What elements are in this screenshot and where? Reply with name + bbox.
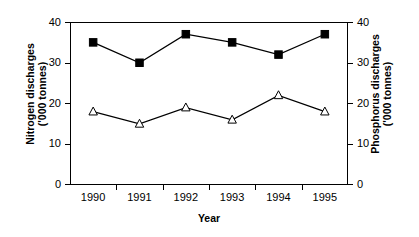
x-label-1993: 1993	[209, 192, 255, 203]
y-left-label-0: 0	[31, 179, 61, 190]
x-label-1994: 1994	[256, 192, 302, 203]
x-tick-boundary-3	[209, 185, 210, 190]
data-point-marker-square	[89, 39, 97, 47]
y-axis-right-title: Phosphorus discharges ('000 tonnes)	[369, 14, 393, 174]
y-right-tick-20	[348, 103, 353, 104]
x-tick-boundary-1	[116, 185, 117, 190]
data-point-marker-triangle	[89, 107, 97, 115]
y-right-tick-30	[348, 63, 353, 64]
series-layer	[70, 22, 348, 185]
x-label-1990: 1990	[70, 192, 116, 203]
x-axis-title: Year	[70, 212, 348, 224]
data-point-marker-square	[182, 30, 190, 38]
x-tick-boundary-4	[255, 185, 256, 190]
x-label-1995: 1995	[302, 192, 348, 203]
y-axis-left-title-line1: Nitrogen discharges	[24, 43, 36, 145]
x-label-1992: 1992	[163, 192, 209, 203]
series-line	[93, 34, 325, 63]
data-point-marker-triangle	[274, 91, 282, 99]
y-right-tick-10	[348, 144, 353, 145]
data-point-marker-square	[321, 30, 329, 38]
data-point-marker-square	[228, 39, 236, 47]
series-nitrogen	[89, 30, 328, 66]
data-point-marker-square	[136, 59, 144, 67]
y-axis-left-title: Nitrogen discharges ('000 tonnes)	[24, 14, 48, 174]
x-tick-boundary-5	[302, 185, 303, 190]
data-point-marker-triangle	[182, 103, 190, 111]
series-line	[93, 95, 325, 124]
y-axis-right-title-line1: Phosphorus discharges	[369, 34, 381, 154]
y-axis-right-title-line2: ('000 tonnes)	[381, 14, 393, 174]
y-right-tick-0	[348, 184, 353, 185]
x-tick-boundary-2	[163, 185, 164, 190]
y-right-tick-40	[348, 22, 353, 23]
y-axis-left-title-line2: ('000 tonnes)	[36, 14, 48, 174]
y-right-label-0: 0	[357, 179, 387, 190]
series-phosphorus	[89, 91, 329, 127]
chart-container: 0 10 20 30 40 0 10 20 30 40 1990 1991 19…	[0, 0, 419, 237]
x-label-1991: 1991	[116, 192, 162, 203]
data-point-marker-square	[275, 51, 283, 59]
